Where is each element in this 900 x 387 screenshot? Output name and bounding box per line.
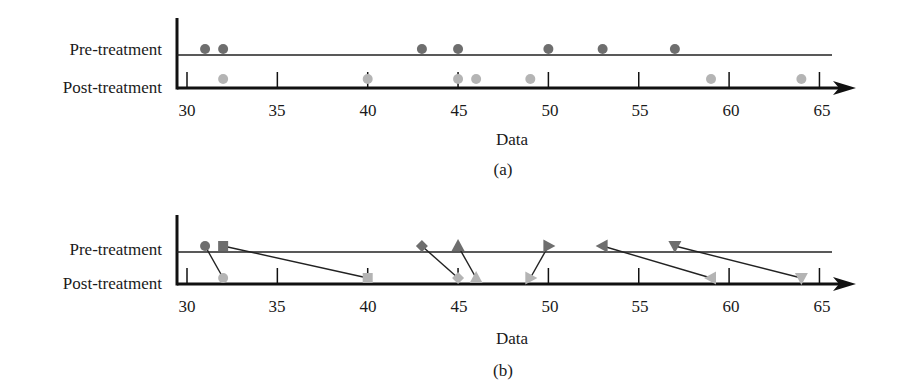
- circle-marker: [453, 44, 463, 54]
- triangle-right-marker: [543, 240, 555, 253]
- tick-label: 55: [620, 102, 660, 119]
- circle-marker: [363, 74, 373, 84]
- tick-label: 40: [348, 102, 388, 119]
- triangle-left-marker: [596, 240, 608, 253]
- circle-marker: [706, 74, 716, 84]
- circle-marker: [471, 74, 481, 84]
- circle-marker: [598, 44, 608, 54]
- tick-label: 45: [439, 298, 479, 315]
- tick-label: 30: [167, 298, 207, 315]
- tick-label: 65: [802, 102, 842, 119]
- tick-label: 50: [530, 298, 570, 315]
- tick-label: 35: [257, 102, 297, 119]
- square-marker: [218, 241, 228, 251]
- circle-marker: [453, 74, 463, 84]
- tick-label: 60: [711, 298, 751, 315]
- post-treatment-label: Post-treatment: [0, 79, 162, 96]
- circle-marker: [525, 74, 535, 84]
- circle-marker: [200, 44, 210, 54]
- tick-label: 65: [802, 298, 842, 315]
- panel-caption: (b): [473, 362, 533, 379]
- circle-marker: [417, 44, 427, 54]
- circle-marker: [670, 44, 680, 54]
- panel-caption: (a): [473, 161, 533, 178]
- circle-marker: [218, 74, 228, 84]
- x-axis-title: Data: [472, 131, 552, 148]
- panel-a: Pre-treatment Post-treatment 30 35 40 45…: [0, 0, 900, 195]
- triangle-up-marker: [470, 271, 483, 283]
- tick-label: 50: [530, 102, 570, 119]
- tick-label: 45: [439, 102, 479, 119]
- tick-label: 60: [711, 102, 751, 119]
- circle-marker: [218, 44, 228, 54]
- x-axis-title: Data: [472, 330, 552, 347]
- post-treatment-label: Post-treatment: [0, 275, 162, 292]
- pre-treatment-label: Pre-treatment: [0, 41, 162, 58]
- pre-treatment-label: Pre-treatment: [0, 241, 162, 258]
- tick-label: 35: [257, 298, 297, 315]
- circle-marker: [543, 44, 553, 54]
- pair-connector-line: [223, 246, 368, 278]
- tick-label: 30: [167, 102, 207, 119]
- tick-label: 55: [620, 298, 660, 315]
- square-marker: [363, 273, 373, 283]
- dot-plot-a: [0, 0, 900, 195]
- panel-b: Pre-treatment Post-treatment 30 35 40 45…: [0, 197, 900, 387]
- circle-marker: [200, 241, 210, 251]
- triangle-up-marker: [452, 239, 465, 251]
- tick-label: 40: [348, 298, 388, 315]
- circle-marker: [796, 74, 806, 84]
- circle-marker: [218, 273, 228, 283]
